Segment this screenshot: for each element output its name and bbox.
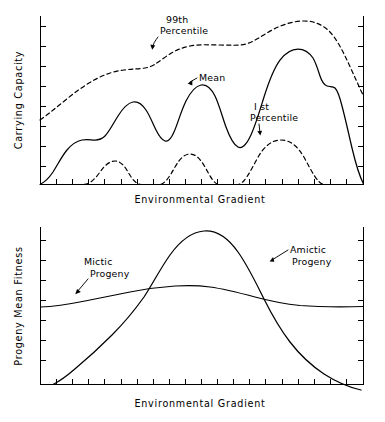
y-axis-title: Carrying Capacity (13, 51, 24, 150)
annotation-amictic-progeny-arrowhead (270, 257, 275, 262)
y-axis-ticks-left (41, 240, 47, 360)
annotation-1st-percentile: I st Percentile (250, 101, 298, 136)
annotation-mean-arrowhead (188, 81, 193, 86)
annotation-amictic-progeny-line2: Progeny (292, 256, 332, 267)
annotation-99th-percentile-line2: Percentile (160, 25, 208, 36)
y-axis-ticks-right (358, 26, 364, 166)
axis-frame (41, 16, 364, 185)
figure-container: 99th Percentile Mean I st Percentile Car… (0, 0, 385, 422)
panel-progeny-mean-fitness: Mictic Progeny Amictic Progeny Progeny M… (0, 211, 385, 422)
annotation-amictic-progeny-leader (272, 250, 288, 260)
annotation-99th-percentile-arrowhead (150, 45, 155, 50)
x-axis-ticks (57, 379, 347, 385)
annotation-mean-label: Mean (199, 72, 225, 83)
curve-mictic-progeny (41, 285, 364, 307)
annotation-1st-percentile-line1: I st (254, 101, 269, 112)
annotation-1st-percentile-line2: Percentile (250, 112, 298, 123)
annotation-mictic-progeny-arrowhead (75, 289, 81, 294)
annotation-1st-percentile-arrowhead (257, 131, 262, 136)
annotation-mean: Mean (188, 72, 226, 85)
annotation-mictic-progeny-leader (77, 279, 88, 292)
y-axis-title: Progeny Mean Fitness (13, 246, 24, 365)
x-axis-title: Environmental Gradient (134, 398, 265, 409)
y-axis-ticks-left (41, 26, 47, 166)
x-axis-title: Environmental Gradient (134, 194, 265, 205)
carrying-capacity-plot: 99th Percentile Mean I st Percentile Car… (0, 0, 385, 211)
panel-carrying-capacity: 99th Percentile Mean I st Percentile Car… (0, 0, 385, 211)
annotation-amictic-progeny-line1: Amictic (290, 244, 326, 255)
y-axis-ticks-right (358, 240, 364, 360)
progeny-mean-fitness-plot: Mictic Progeny Amictic Progeny Progeny M… (0, 211, 385, 422)
annotation-mictic-progeny-line1: Mictic (84, 256, 112, 267)
annotation-mictic-progeny: Mictic Progeny (75, 256, 130, 294)
x-axis-ticks (57, 179, 347, 185)
annotation-amictic-progeny: Amictic Progeny (270, 244, 332, 267)
annotation-99th-percentile-line1: 99th (166, 14, 188, 25)
annotation-mictic-progeny-line2: Progeny (90, 268, 130, 279)
curve-mean (41, 49, 364, 184)
curve-1st-percentile (40, 140, 363, 185)
